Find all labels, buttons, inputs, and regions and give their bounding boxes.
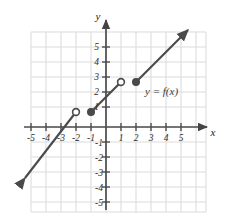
open-point-1-3 xyxy=(118,79,125,86)
function-segment-right xyxy=(136,30,188,82)
graph-figure: -5 -4 -3 -2 -1 1 2 3 4 5 5 4 3 2 1 -1 -2… xyxy=(0,0,232,221)
open-point-neg2-1 xyxy=(73,109,80,116)
ytick-label-3: 3 xyxy=(93,72,99,82)
function-label: y = f(x) xyxy=(144,85,178,98)
ytick-label-neg2: -2 xyxy=(95,153,103,163)
xtick-label-1: 1 xyxy=(119,133,124,143)
xtick-label-4: 4 xyxy=(164,133,169,143)
ytick-label-4: 4 xyxy=(94,57,99,67)
axis-lines xyxy=(24,20,207,210)
xtick-label-3: 3 xyxy=(148,133,154,143)
xtick-label-2: 2 xyxy=(134,133,139,143)
ytick-label-5: 5 xyxy=(94,42,99,52)
xtick-label-neg5: -5 xyxy=(27,133,35,143)
xtick-label-neg4: -4 xyxy=(42,133,50,143)
grid-lines xyxy=(31,32,206,212)
ytick-label-neg3: -3 xyxy=(95,168,103,178)
xtick-label-neg3: -3 xyxy=(57,133,65,143)
ytick-label-1: 1 xyxy=(94,102,99,112)
coordinate-plane: -5 -4 -3 -2 -1 1 2 3 4 5 5 4 3 2 1 -1 -2… xyxy=(0,0,232,221)
ytick-label-neg1: -1 xyxy=(95,138,103,148)
closed-point-2-3 xyxy=(133,79,140,86)
ytick-label-neg5: -5 xyxy=(95,198,103,208)
xtick-label-neg1: -1 xyxy=(87,133,95,143)
ytick-label-2: 2 xyxy=(94,87,99,97)
x-axis-label: x xyxy=(210,126,216,138)
xtick-label-neg2: -2 xyxy=(72,133,80,143)
ytick-label-neg4: -4 xyxy=(95,183,103,193)
xtick-label-5: 5 xyxy=(179,133,184,143)
y-axis-label: y xyxy=(95,10,101,22)
function-segment-left xyxy=(25,112,76,178)
